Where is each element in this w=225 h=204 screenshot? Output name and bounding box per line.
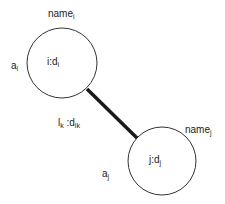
node-j-attr-sub: j — [108, 173, 110, 180]
node-j-name-sub: j — [210, 129, 212, 136]
node-i-circle — [27, 28, 97, 98]
node-i-label-text: i:d — [47, 56, 58, 67]
node-j-name-text: name — [185, 124, 210, 135]
node-i-attr: ai — [11, 60, 18, 72]
node-j-label: j:dj — [149, 154, 161, 166]
edge-line — [87, 89, 137, 138]
node-j-label-sub: j — [160, 159, 162, 166]
node-i-attr-sub: i — [17, 65, 19, 72]
node-j-label-text: j:d — [149, 154, 160, 165]
node-i-name-text: name — [48, 8, 73, 19]
node-i-name: namei — [48, 8, 75, 20]
node-j-attr: aj — [102, 168, 109, 180]
node-i-label: i:di — [47, 56, 59, 68]
node-j-name: namej — [185, 124, 212, 136]
diagram-canvas — [0, 0, 225, 204]
edge-label-d-sub: ik — [75, 122, 80, 129]
node-j-circle — [128, 127, 196, 195]
node-i-name-sub: i — [73, 13, 75, 20]
edge-label: lk :dik — [58, 117, 80, 129]
node-i-label-sub: i — [58, 61, 60, 68]
edge-label-d: :d — [64, 117, 75, 128]
